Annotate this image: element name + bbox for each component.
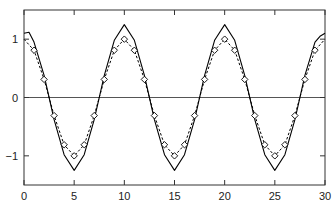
x-tick-label: 0 — [21, 190, 27, 202]
y-tick-label: −1 — [5, 150, 18, 162]
diamond-marker — [101, 76, 107, 82]
x-tick-label: 30 — [319, 190, 331, 202]
diamond-marker — [302, 76, 308, 82]
diamond-marker — [292, 112, 298, 118]
diamond-marker — [242, 76, 248, 82]
diamond-marker — [191, 112, 197, 118]
diamond-marker — [141, 76, 147, 82]
x-tick-label: 5 — [71, 190, 77, 202]
x-tick-label: 25 — [269, 190, 281, 202]
diamond-marker — [201, 76, 207, 82]
diamond-marker — [91, 112, 97, 118]
x-axis-ticks: 051015202530 — [21, 10, 331, 202]
diamond-marker — [41, 76, 47, 82]
chart-svg: 051015202530 −101 — [0, 0, 336, 209]
y-tick-label: 1 — [12, 33, 18, 45]
x-tick-label: 15 — [168, 190, 180, 202]
diamond-marker — [51, 112, 57, 118]
x-tick-label: 10 — [118, 190, 130, 202]
diamond-marker — [151, 112, 157, 118]
y-tick-label: 0 — [12, 92, 18, 104]
x-tick-label: 20 — [219, 190, 231, 202]
diamond-marker — [252, 112, 258, 118]
